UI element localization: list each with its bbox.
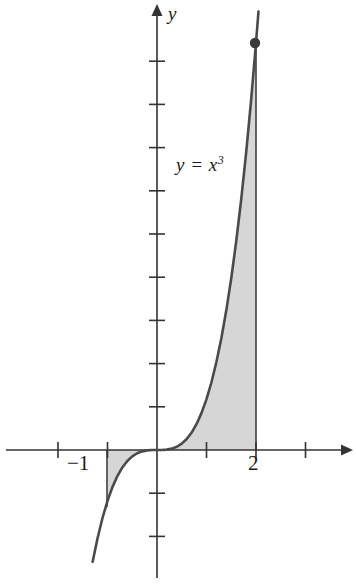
curve-equation-label: y = x3	[176, 154, 224, 174]
plot-svg	[0, 0, 356, 584]
shaded-region-group	[108, 43, 257, 501]
shaded-region-positive	[157, 43, 256, 450]
x-tick-label-neg1: −1	[67, 453, 89, 474]
x-tick-label-2: 2	[248, 453, 259, 474]
y-axis-arrowhead	[152, 4, 163, 16]
equation-base: y = x	[176, 154, 218, 175]
x-axis-arrowhead	[341, 445, 353, 456]
y-axis-group	[152, 4, 163, 578]
y-axis-label: y	[168, 4, 176, 23]
figure-canvas: y y = x3 −1 2	[0, 0, 356, 584]
equation-exponent: 3	[218, 153, 225, 167]
point-marker-2-8	[250, 38, 260, 48]
